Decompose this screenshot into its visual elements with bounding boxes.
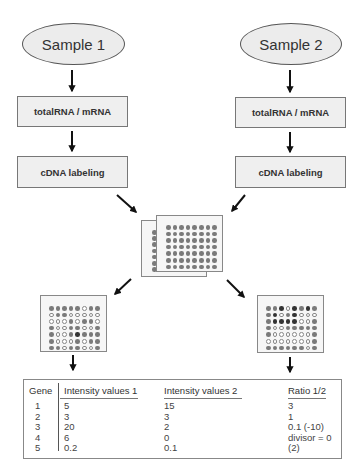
header-underline-1	[60, 398, 138, 399]
array-spot	[279, 313, 284, 318]
array-spot	[299, 326, 304, 331]
array-spot	[212, 225, 217, 230]
array-spot	[279, 339, 284, 344]
array-spot	[186, 225, 191, 230]
array-spot	[206, 238, 211, 243]
array-spot	[192, 238, 197, 243]
array-spot	[62, 332, 67, 337]
sample-2-ellipse: Sample 2	[240, 23, 342, 65]
array-spot	[192, 251, 197, 256]
array-spot	[273, 346, 278, 351]
array-spot	[89, 332, 94, 337]
table-cell-ratio: 3	[288, 401, 293, 412]
array-spot	[266, 339, 271, 344]
array-spot	[206, 265, 211, 270]
array-spot	[89, 306, 94, 311]
result-array-1-dot-grid	[48, 305, 101, 351]
array-spot	[82, 313, 87, 318]
sample-2-label: Sample 2	[259, 36, 322, 53]
arrow-diagonal-icon	[227, 280, 244, 297]
result-array-2	[257, 295, 324, 353]
array-spot	[75, 326, 80, 331]
array-spot	[82, 339, 87, 344]
array-spot	[273, 313, 278, 318]
array-spot	[273, 326, 278, 331]
array-spot	[286, 339, 291, 344]
array-spot	[75, 332, 80, 337]
header-ratio: Ratio 1/2	[288, 386, 326, 397]
array-spot	[192, 265, 197, 270]
array-spot	[286, 319, 291, 324]
array-spot	[56, 339, 61, 344]
array-spot	[89, 326, 94, 331]
array-spot	[173, 238, 178, 243]
array-spot	[292, 339, 297, 344]
array-spot	[49, 332, 54, 337]
array-spot	[286, 332, 291, 337]
table-cell-gene: 1	[35, 401, 40, 412]
array-spot	[173, 232, 178, 237]
array-spot	[166, 258, 171, 263]
array-spot	[49, 346, 54, 351]
array-spot	[95, 319, 100, 324]
array-spot	[69, 346, 74, 351]
array-spot	[279, 306, 284, 311]
array-spot	[75, 313, 80, 318]
array-spot	[89, 319, 94, 324]
array-spot	[82, 346, 87, 351]
array-spot	[306, 306, 311, 311]
array-spot	[292, 332, 297, 337]
array-spot	[49, 339, 54, 344]
array-spot	[69, 332, 74, 337]
table-cell-int2: 15	[164, 401, 175, 412]
array-spot	[62, 339, 67, 344]
header-intensity-1: Intensity values 1	[64, 386, 137, 397]
array-spot	[56, 346, 61, 351]
array-spot	[179, 258, 184, 263]
sample-1-cdna-box: cDNA labeling	[17, 156, 128, 188]
table-cell-int1: 0.2	[64, 443, 77, 454]
table-cell-int1: 20	[64, 422, 75, 433]
array-spot	[82, 306, 87, 311]
array-spot	[199, 245, 204, 250]
array-spot	[89, 346, 94, 351]
array-spot	[292, 326, 297, 331]
array-spot	[173, 265, 178, 270]
array-spot	[212, 265, 217, 270]
array-spot	[306, 313, 311, 318]
array-spot	[312, 319, 317, 324]
array-spot	[279, 319, 284, 324]
array-spot	[286, 306, 291, 311]
array-spot	[199, 258, 204, 263]
array-spot	[75, 346, 80, 351]
table-cell-int1: 5	[64, 401, 69, 412]
array-spot	[95, 313, 100, 318]
table-cell-ratio: (2)	[288, 443, 300, 454]
table-cell-int2: 2	[164, 422, 169, 433]
header-intensity-2: Intensity values 2	[164, 386, 237, 397]
array-spot	[173, 251, 178, 256]
array-spot	[199, 265, 204, 270]
array-spot	[192, 258, 197, 263]
array-spot	[266, 346, 271, 351]
array-spot	[95, 339, 100, 344]
sample-2-cdna-box: cDNA labeling	[235, 156, 346, 188]
array-spot	[179, 265, 184, 270]
array-spot	[173, 258, 178, 263]
array-spot	[62, 319, 67, 324]
array-spot	[306, 339, 311, 344]
array-spot	[186, 265, 191, 270]
array-spot	[299, 306, 304, 311]
sample-1-cdna-label: cDNA labeling	[40, 167, 104, 178]
array-spot	[212, 232, 217, 237]
front-chip-dot-grid	[165, 224, 218, 270]
array-spot	[292, 319, 297, 324]
array-spot	[82, 332, 87, 337]
array-spot	[186, 258, 191, 263]
array-spot	[186, 251, 191, 256]
table-cell-int2: 0.1	[164, 443, 177, 454]
table-cell-gene: 5	[35, 443, 40, 454]
array-spot	[286, 313, 291, 318]
array-spot	[82, 319, 87, 324]
array-spot	[192, 232, 197, 237]
